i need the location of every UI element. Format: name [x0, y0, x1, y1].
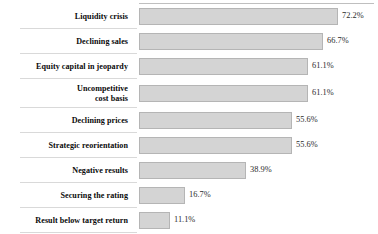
category-label: Strategic reorientation [0, 141, 133, 150]
bar-track: 55.6% [133, 133, 378, 158]
bar-rows: Liquidity crisis72.2%Declining sales66.7… [0, 4, 378, 233]
bar[interactable] [139, 212, 170, 229]
bar-value-label: 66.7% [327, 37, 349, 45]
bar-value-label: 38.9% [250, 166, 272, 174]
bar-row: Strategic reorientation55.6% [0, 133, 378, 158]
bar-row: Securing the rating16.7% [0, 183, 378, 208]
category-label: Result below target return [0, 216, 133, 225]
bar-value-label: 72.2% [342, 12, 364, 20]
category-label: Equity capital in jeopardy [0, 62, 133, 71]
bar[interactable] [139, 187, 185, 204]
bar[interactable] [139, 85, 308, 102]
bar-track: 61.1% [133, 79, 378, 108]
bar-value-label: 55.6% [296, 141, 318, 149]
bar[interactable] [139, 137, 292, 154]
bar-row: Uncompetitive cost basis61.1% [0, 79, 378, 108]
bar-row: Liquidity crisis72.2% [0, 4, 378, 29]
category-label: Declining sales [0, 37, 133, 46]
bar-track: 66.7% [133, 29, 378, 54]
bar[interactable] [139, 33, 323, 50]
bar-row: Result below target return11.1% [0, 208, 378, 233]
bar-row: Equity capital in jeopardy61.1% [0, 54, 378, 79]
bar-track: 38.9% [133, 158, 378, 183]
bar[interactable] [139, 162, 246, 179]
bar-track: 16.7% [133, 183, 378, 208]
bar-track: 72.2% [133, 4, 378, 29]
bar-value-label: 61.1% [312, 62, 334, 70]
bar-value-label: 11.1% [174, 216, 195, 224]
row-separator [20, 232, 137, 233]
bar-track: 61.1% [133, 54, 378, 79]
bar-track: 55.6% [133, 108, 378, 133]
bar-row: Declining sales66.7% [0, 29, 378, 54]
bar-track: 11.1% [133, 208, 378, 233]
category-label: Negative results [0, 166, 133, 175]
category-label: Liquidity crisis [0, 12, 133, 21]
bar-value-label: 16.7% [189, 191, 211, 199]
bar[interactable] [139, 58, 308, 75]
bar-row: Negative results38.9% [0, 158, 378, 183]
bar[interactable] [139, 8, 338, 25]
horizontal-bar-chart: Liquidity crisis72.2%Declining sales66.7… [0, 0, 378, 234]
category-label: Declining prices [0, 116, 133, 125]
bar-value-label: 55.6% [296, 116, 318, 124]
category-label: Securing the rating [0, 191, 133, 200]
bar-value-label: 61.1% [312, 89, 334, 97]
category-label: Uncompetitive cost basis [0, 84, 133, 103]
bar[interactable] [139, 112, 292, 129]
bar-row: Declining prices55.6% [0, 108, 378, 133]
